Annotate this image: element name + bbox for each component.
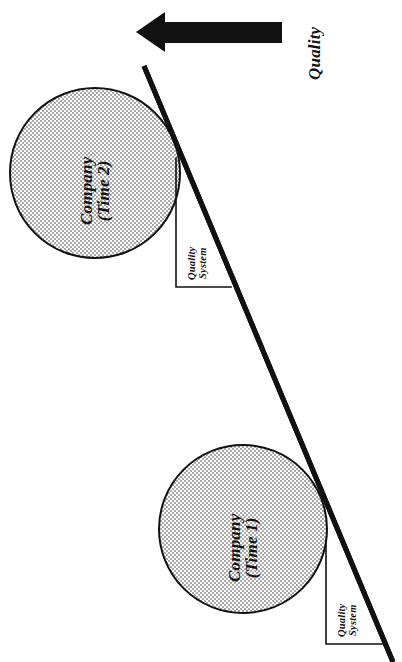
company-time-2-label-line1: Company: [77, 157, 96, 225]
company-time-2-label-line2: (Time 2): [95, 157, 112, 225]
quality-system-label-time-2: Quality System: [187, 247, 208, 281]
quality-arrow-icon: [136, 12, 282, 52]
diagram-vector-layer: [0, 0, 402, 662]
quality-system-label-time-1: Quality System: [337, 604, 358, 638]
quality-system-label-time-2-line1: Quality: [186, 247, 197, 281]
company-time-1-label: Company (Time 1): [226, 514, 261, 582]
quality-system-label-time-2-line2: System: [198, 247, 209, 281]
quality-system-label-time-1-line1: Quality: [336, 604, 347, 638]
quality-axis-label: Quality: [306, 27, 323, 80]
diagram-canvas: Quality Company (Time 2) Company (Time 1…: [0, 0, 402, 662]
quality-system-label-time-1-line2: System: [348, 604, 359, 638]
company-time-1-label-line2: (Time 1): [243, 514, 260, 582]
company-time-1-label-line1: Company: [225, 514, 244, 582]
company-time-2-label: Company (Time 2): [78, 157, 113, 225]
